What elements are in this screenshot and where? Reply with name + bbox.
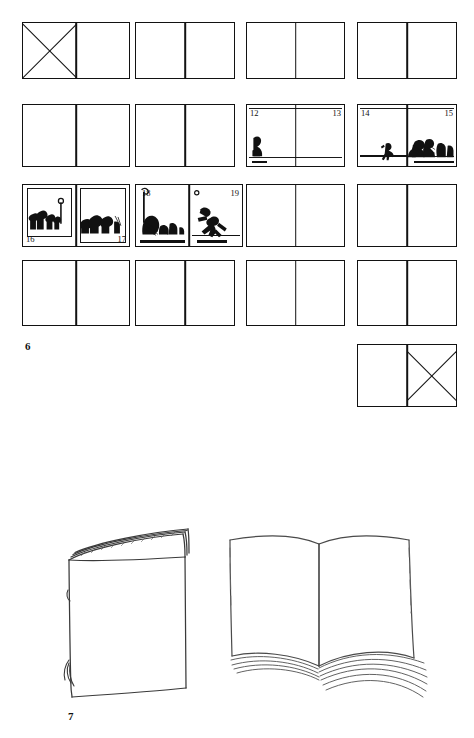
book-gutter — [188, 185, 190, 246]
book-gutter — [75, 185, 77, 246]
book-gutter — [295, 23, 297, 78]
figure-caption-number: 7 — [68, 710, 74, 722]
spread-right-page — [407, 345, 456, 406]
book-gutter — [295, 185, 297, 246]
book-gutter — [75, 261, 77, 325]
spread-blank[interactable] — [357, 260, 457, 326]
spread-blank[interactable] — [357, 184, 457, 247]
spread-blank[interactable] — [135, 22, 235, 79]
cross-out-mark — [23, 23, 76, 78]
book-gutter — [184, 23, 186, 78]
scanned-page: 12 13 — [0, 0, 474, 738]
book-gutter — [184, 261, 186, 325]
spread-blank[interactable] — [22, 22, 130, 79]
ground-line-right — [192, 235, 240, 236]
book-gutter — [75, 23, 77, 78]
spread-right-page: 17 — [76, 185, 129, 246]
figure-7-book-illustrations: 7 — [0, 430, 474, 738]
page-number: 14 — [361, 109, 370, 118]
spread-left-page — [358, 345, 407, 406]
open-book-illustration — [218, 508, 428, 713]
page-number: 15 — [445, 109, 454, 118]
spread-blank[interactable] — [357, 344, 457, 407]
book-gutter — [406, 345, 408, 406]
page-number: 12 — [250, 109, 259, 118]
page-number: 16 — [26, 235, 35, 244]
book-gutter — [295, 105, 297, 166]
spread-blank[interactable] — [246, 184, 345, 247]
page-number: 17 — [118, 235, 127, 244]
spread-blank[interactable] — [135, 104, 235, 167]
book-gutter — [184, 105, 186, 166]
closed-book-illustration — [55, 515, 215, 705]
spread-blank[interactable] — [357, 22, 457, 79]
ground-bar-left — [140, 240, 185, 243]
spread-left-page: 16 — [23, 185, 76, 246]
ground-bar-right — [197, 240, 227, 243]
spread-blank[interactable] — [246, 22, 345, 79]
book-gutter — [406, 23, 408, 78]
book-gutter — [406, 185, 408, 246]
book-gutter — [295, 261, 297, 325]
ground-bar-left — [252, 161, 267, 163]
ground-bar-right — [414, 161, 454, 163]
page-number: 18 — [142, 189, 151, 198]
spread-pages-16-17[interactable]: 16 17 — [22, 184, 130, 247]
page-number: 19 — [231, 189, 240, 198]
spread-left-page — [23, 23, 76, 78]
cross-out-mark — [407, 345, 456, 406]
spread-blank[interactable] — [246, 260, 345, 326]
spread-blank[interactable] — [135, 260, 235, 326]
book-gutter — [406, 261, 408, 325]
spread-pages-12-13[interactable]: 12 13 — [246, 104, 345, 167]
book-gutter — [75, 105, 77, 166]
figure-6-storyboard-grid: 12 13 — [0, 0, 474, 420]
spread-blank[interactable] — [22, 104, 130, 167]
ground-line-left — [360, 155, 407, 157]
spread-right-page — [76, 23, 129, 78]
spread-blank[interactable] — [22, 260, 130, 326]
spread-pages-18-19[interactable]: 18 19 — [135, 184, 243, 247]
book-gutter — [406, 105, 408, 166]
spread-pages-14-15[interactable]: 14 15 — [357, 104, 457, 167]
figure-caption-number: 6 — [25, 340, 31, 352]
page-number: 13 — [333, 109, 342, 118]
